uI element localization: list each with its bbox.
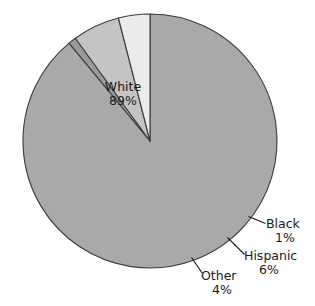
slice-label-white-name: White [92, 80, 154, 94]
slice-label-black: Black 1% [266, 217, 310, 245]
slice-label-black-name: Black [266, 217, 310, 231]
slice-label-black-value: 1% [266, 231, 310, 245]
leader-line-black [249, 217, 266, 224]
slice-label-other-name: Other [201, 269, 247, 283]
slice-label-other-value: 4% [201, 283, 247, 297]
pie-chart: White 89% Black 1% Hispanic 6% Other 4% [0, 0, 315, 306]
slice-label-white: White 89% [92, 80, 154, 108]
slice-label-hispanic-name: Hispanic [244, 249, 306, 263]
slice-label-other: Other 4% [201, 269, 247, 297]
slice-label-hispanic: Hispanic 6% [244, 249, 306, 277]
pie-slices [23, 14, 277, 268]
leader-line-hispanic [228, 238, 245, 255]
slice-label-hispanic-value: 6% [244, 263, 306, 277]
slice-label-white-value: 89% [92, 94, 154, 108]
